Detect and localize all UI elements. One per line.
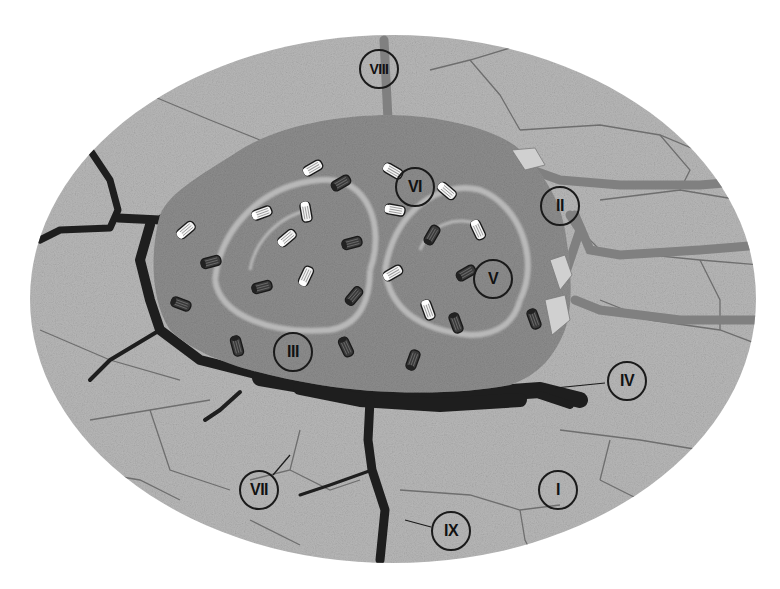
label-viii: VIII (359, 49, 399, 89)
label-ii: II (540, 186, 580, 226)
label-ix: IX (431, 511, 471, 551)
label-vii: VII (239, 470, 279, 510)
label-i: I (538, 470, 578, 510)
label-v: V (473, 259, 513, 299)
diagram-canvas (0, 0, 780, 589)
label-vi: VI (395, 167, 435, 207)
substrate-ellipse (0, 0, 780, 589)
biofilm-diagram: I II III IV V VI VII VIII IX (0, 0, 780, 589)
label-iii: III (273, 332, 313, 372)
label-iv: IV (607, 361, 647, 401)
